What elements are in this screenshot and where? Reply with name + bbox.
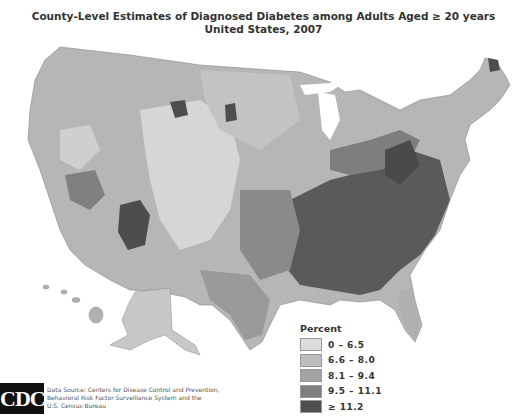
- legend-swatch: [300, 385, 322, 398]
- hawaii: [43, 285, 103, 323]
- legend-item: 8.1 – 9.4: [300, 368, 382, 384]
- legend-label: ≥ 11.2: [328, 402, 364, 412]
- legend-item: 9.5 – 11.1: [300, 384, 382, 400]
- legend-swatch: [300, 400, 322, 413]
- legend-swatch: [300, 338, 322, 351]
- legend-swatch: [300, 369, 322, 382]
- legend-swatch: [300, 354, 322, 367]
- data-source-note: Data Source: Centers for Disease Control…: [47, 386, 227, 410]
- cdc-logo: CDC: [0, 383, 44, 414]
- source-line: U.S. Census Bureau: [47, 402, 227, 410]
- legend-label: 0 – 6.5: [328, 340, 364, 350]
- us-choropleth-map: [0, 0, 527, 417]
- legend-item: 6.6 – 8.0: [300, 353, 382, 369]
- source-line: Behavioral Risk Factor Surveillance Syst…: [47, 394, 227, 402]
- source-line: Data Source: Centers for Disease Control…: [47, 386, 227, 394]
- legend-item: ≥ 11.2: [300, 399, 382, 415]
- legend-label: 6.6 – 8.0: [328, 355, 375, 365]
- legend-label: 8.1 – 9.4: [328, 371, 375, 381]
- legend-title: Percent: [300, 323, 382, 334]
- legend-label: 9.5 – 11.1: [328, 386, 382, 396]
- legend: Percent 0 – 6.5 6.6 – 8.0 8.1 – 9.4 9.5 …: [300, 323, 382, 415]
- legend-item: 0 – 6.5: [300, 337, 382, 353]
